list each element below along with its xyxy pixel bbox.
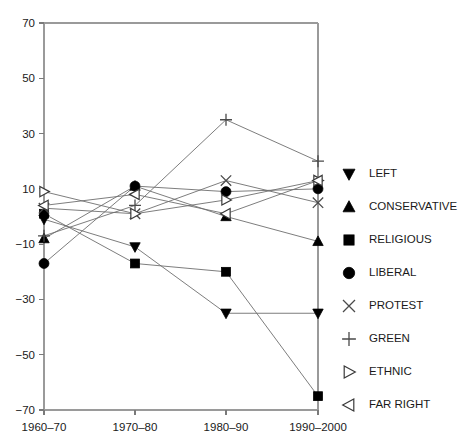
y-tick-label: 30 [22,128,35,140]
data-point-religious-1 [131,259,140,268]
x-tick-label: 1980–90 [204,421,249,433]
y-tick-label: 10 [22,183,35,195]
series-line-liberal [44,186,318,263]
legend-item-ethnic[interactable]: ETHNIC [344,365,412,378]
chart-legend: LEFTCONSERVATIVERELIGIOUSLIBERALPROTESTG… [342,167,457,411]
series-line-green [44,120,318,236]
legend-item-conservative[interactable]: CONSERVATIVE [343,200,458,212]
legend-item-label: FAR RIGHT [369,398,430,410]
circle-solid-icon [343,267,354,278]
series-line-religious [44,214,318,396]
triangle-right-open-icon [344,366,355,378]
data-point-green-0 [38,230,50,242]
data-point-liberal-0 [39,259,49,269]
cross-x-icon [343,300,355,312]
legend-item-left[interactable]: LEFT [343,167,397,180]
x-tick-label: 1960–70 [22,421,67,433]
square-solid-icon [344,235,354,245]
x-tick-label: 1990–2000 [289,421,347,433]
x-tick-label: 1970–80 [113,421,158,433]
x-axis-ticks: 1960–701970–801980–901990–2000 [22,410,347,433]
data-point-religious-2 [222,267,231,276]
legend-item-label: ETHNIC [369,365,412,377]
y-tick-label: −30 [15,293,35,305]
y-tick-label: −10 [15,238,35,250]
data-point-religious-3 [314,392,323,401]
triangle-up-solid-icon [343,201,355,212]
legend-item-label: GREEN [369,332,410,344]
legend-item-label: RELIGIOUS [369,233,432,245]
y-tick-label: 50 [22,72,35,84]
legend-item-label: PROTEST [369,299,423,311]
y-tick-label: −70 [15,404,35,416]
legend-item-religious[interactable]: RELIGIOUS [344,233,432,245]
series-line-left [44,219,318,313]
series-markers [38,114,324,401]
triangle-down-solid-icon [343,169,355,180]
legend-item-protest[interactable]: PROTEST [343,299,423,312]
line-chart-svg: 70503010−10−30−50−70 1960–701970–801980–… [0,0,460,447]
series-line-protest [44,181,318,214]
data-point-left-2 [221,309,231,319]
legend-item-green[interactable]: GREEN [342,332,410,346]
data-point-ethnic-0 [40,186,50,196]
series-line-conservative [44,186,318,241]
data-point-green-3 [312,155,324,167]
data-point-protest-2 [221,175,231,185]
legend-item-label: LIBERAL [369,266,417,278]
data-point-left-1 [130,243,140,253]
legend-item-far-right[interactable]: FAR RIGHT [343,398,431,411]
y-tick-label: −50 [15,349,35,361]
series-lines [44,120,318,396]
chart-figure-root: 70503010−10−30−50−70 1960–701970–801980–… [0,0,460,447]
triangle-left-open-icon [343,399,354,411]
legend-item-liberal[interactable]: LIBERAL [343,266,417,279]
plus-icon [342,332,356,346]
legend-item-label: LEFT [369,167,397,179]
data-point-left-3 [313,309,323,319]
y-tick-label: 70 [22,17,35,29]
legend-item-label: CONSERVATIVE [369,200,458,212]
chart-axes [44,23,318,410]
